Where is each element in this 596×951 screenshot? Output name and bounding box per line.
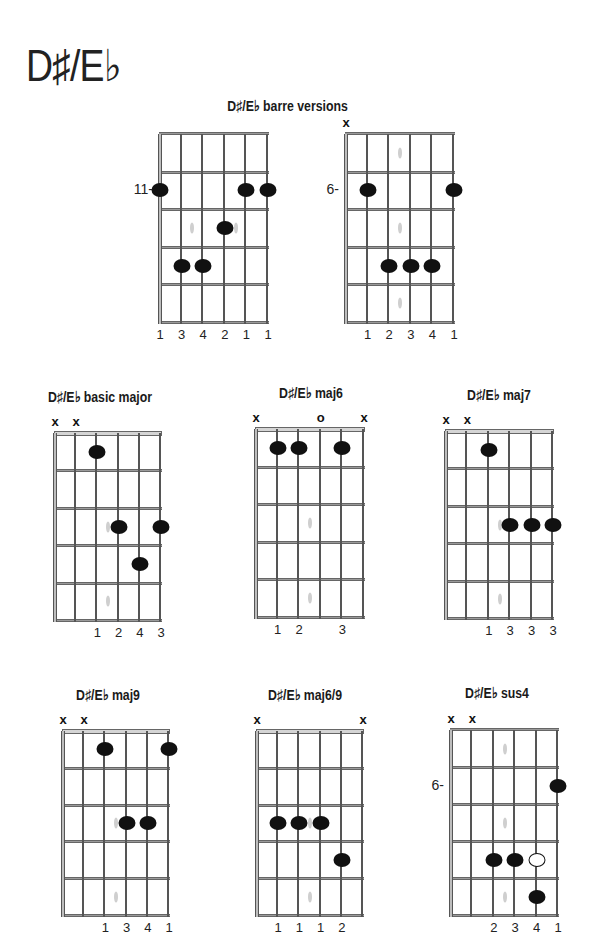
finger-number: 3 — [528, 623, 535, 638]
fret-line — [450, 803, 559, 806]
fret-line — [62, 914, 170, 917]
finger-dot — [291, 441, 308, 455]
fret-position-label: 11- — [134, 181, 153, 197]
muted-string-icon: x — [73, 414, 80, 429]
chord-diagram-maj9: xx1341 — [62, 731, 168, 915]
finger-number: 1 — [264, 327, 271, 342]
string-line — [556, 730, 558, 917]
muted-string-icon: x — [469, 711, 476, 726]
fret-line — [445, 617, 554, 620]
string-line — [366, 134, 368, 324]
finger-dot — [333, 853, 350, 867]
finger-dot — [424, 259, 441, 273]
fret-inlay — [503, 891, 507, 902]
finger-dot — [118, 816, 135, 830]
fret-line — [159, 321, 269, 324]
muted-string-icon: x — [253, 712, 260, 727]
finger-dot — [161, 742, 178, 756]
nut — [256, 729, 364, 734]
fret-line — [256, 914, 364, 917]
string-line — [276, 429, 278, 619]
fret-line — [450, 914, 559, 917]
fret-line — [54, 469, 162, 472]
finger-dot — [216, 221, 233, 235]
string-line — [513, 730, 515, 917]
fret-line — [255, 578, 365, 581]
muted-string-icon: x — [464, 412, 471, 427]
finger-dot — [528, 890, 545, 904]
fret-line — [159, 171, 269, 174]
finger-dot — [97, 742, 114, 756]
finger-dot — [269, 441, 286, 455]
nut — [445, 429, 554, 434]
finger-number: 3 — [512, 920, 519, 935]
fret-line — [62, 767, 170, 770]
finger-dot — [480, 443, 497, 457]
finger-number: 1 — [102, 920, 109, 935]
fret-line — [255, 466, 365, 469]
string-line — [297, 429, 299, 619]
string-line — [244, 134, 246, 324]
chord-diagram-sus4: xx23416- — [450, 730, 557, 915]
fret-inlay — [503, 743, 507, 754]
finger-dot — [89, 445, 106, 459]
finger-number: 3 — [549, 623, 556, 638]
finger-dot — [446, 183, 463, 197]
fret-line — [256, 767, 364, 770]
finger-dot — [402, 259, 419, 273]
fret-line — [445, 505, 554, 508]
string-line — [340, 429, 342, 619]
page-title: D♯/E♭ — [26, 44, 121, 88]
string-line — [103, 731, 105, 917]
muted-string-icon: x — [342, 115, 349, 130]
finger-dot — [359, 183, 376, 197]
optional-note-dot — [528, 853, 545, 867]
finger-dot — [523, 518, 540, 532]
finger-number: 1 — [275, 920, 282, 935]
fret-position-label: 6- — [432, 777, 444, 793]
fret-line — [345, 246, 455, 249]
muted-string-icon: x — [81, 712, 88, 727]
muted-string-icon: x — [360, 410, 367, 425]
finger-number: 3 — [123, 920, 130, 935]
finger-number: 3 — [178, 327, 185, 342]
finger-dot — [110, 520, 127, 534]
fret-line — [345, 321, 455, 324]
finger-dot — [485, 853, 502, 867]
chord-diagram-maj6-9: xx1112 — [256, 731, 362, 915]
finger-dot — [139, 816, 156, 830]
fret-line — [54, 507, 162, 510]
string-line — [167, 731, 169, 917]
fret-line — [255, 503, 365, 506]
barre-section-title: D♯/E♭ barre versions — [227, 97, 348, 115]
fret-inlay — [498, 594, 502, 605]
finger-number: 2 — [115, 625, 122, 640]
fret-line — [256, 804, 364, 807]
fret-line — [54, 582, 162, 585]
finger-number: 2 — [296, 622, 303, 637]
string-line — [201, 134, 203, 324]
finger-dot — [545, 518, 562, 532]
fret-line — [159, 208, 269, 211]
muted-string-icon: x — [252, 410, 259, 425]
open-string-icon: o — [317, 410, 325, 425]
string-line — [53, 433, 57, 622]
string-line — [492, 730, 494, 917]
muted-string-icon: x — [51, 414, 58, 429]
chord-diagram-basic-major: xx1243 — [54, 433, 160, 620]
fret-line — [445, 467, 554, 470]
string-line — [266, 134, 268, 324]
chord-title: D♯/E♭ basic major — [48, 388, 152, 406]
fret-line — [345, 283, 455, 286]
nut — [54, 431, 162, 436]
finger-number: 3 — [339, 622, 346, 637]
fret-position-label: 6- — [327, 181, 339, 197]
fret-inlay — [106, 596, 110, 607]
string-line — [430, 134, 432, 324]
fret-line — [62, 877, 170, 880]
finger-number: 3 — [507, 623, 514, 638]
string-line — [254, 429, 258, 619]
chord-title: D♯/E♭ maj6 — [279, 384, 343, 402]
finger-dot — [334, 441, 351, 455]
finger-number: 1 — [485, 623, 492, 638]
